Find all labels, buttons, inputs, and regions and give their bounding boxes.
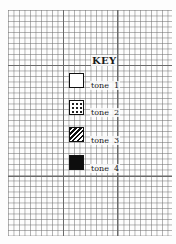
- tone-3-swatch-icon: [69, 127, 84, 142]
- graph-paper: KEY tone1 tone2 tone3 tone4: [0, 0, 176, 244]
- tone-3-label: tone3: [90, 136, 120, 145]
- tone-number: 4: [114, 164, 119, 173]
- tone-2-label: tone2: [90, 108, 120, 117]
- key-title: KEY: [91, 55, 117, 66]
- major-grid-line: [8, 65, 172, 66]
- tone-2-swatch-icon: [69, 100, 84, 115]
- grid-lines: [8, 10, 172, 236]
- tone-label-text: tone: [91, 108, 109, 117]
- tone-label-text: tone: [91, 136, 109, 145]
- tone-label-text: tone: [91, 164, 109, 173]
- tone-4-label: tone4: [90, 164, 120, 173]
- tone-number: 3: [114, 136, 119, 145]
- tone-4-swatch-icon: [69, 155, 84, 170]
- major-grid-line: [63, 10, 64, 236]
- tone-1-swatch-icon: [69, 73, 84, 88]
- major-grid-line: [117, 10, 118, 236]
- major-grid-line: [8, 176, 172, 177]
- tone-number: 1: [114, 81, 119, 90]
- tone-number: 2: [114, 108, 119, 117]
- tone-label-text: tone: [91, 81, 109, 90]
- tone-1-label: tone1: [90, 81, 120, 90]
